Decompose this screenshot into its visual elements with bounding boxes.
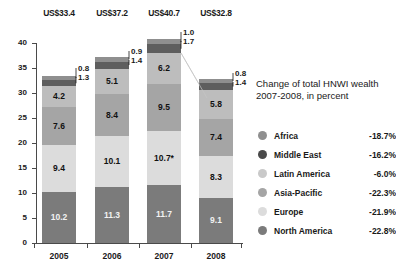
legend-item-asia-pacific[interactable]: Asia-Pacific-22.3%	[258, 183, 396, 202]
legend-color-swatch-icon	[258, 150, 267, 159]
bar-segment	[147, 39, 181, 44]
segment-value-label: 5.8	[210, 100, 222, 109]
legend-color-swatch-icon	[258, 131, 267, 140]
legend-item-latin-america[interactable]: Latin America-6.0%	[258, 164, 396, 183]
x-tick-label-2005: 2005	[34, 251, 84, 261]
bar-2008: 9.18.37.45.8	[199, 79, 233, 243]
y-tick-mark	[32, 93, 36, 94]
x-tick-mark	[87, 244, 88, 248]
callout-value-label: 1.0	[183, 28, 194, 37]
y-tick-mark	[32, 68, 36, 69]
bar-segment: 9.4	[42, 145, 76, 192]
legend: Change of total HNWI wealth 2007-2008, i…	[256, 78, 396, 102]
bar-segment	[199, 79, 233, 83]
bar-segment	[95, 57, 129, 62]
legend-item-label: Africa	[274, 131, 369, 141]
bar-segment: 7.4	[199, 119, 233, 156]
legend-item-label: Europe	[274, 207, 369, 217]
bar-segment: 8.4	[95, 94, 129, 136]
y-tick-label: 30	[11, 88, 27, 97]
y-axis-line	[36, 43, 37, 244]
bar-segment	[199, 83, 233, 90]
legend-color-swatch-icon	[258, 207, 267, 216]
callout-leader-line	[181, 53, 199, 84]
callout-value-label: 0.9	[131, 47, 142, 56]
y-tick-label: 35	[11, 63, 27, 72]
bar-segment: 5.1	[95, 69, 129, 95]
y-tick-label: 0	[11, 238, 27, 247]
x-tick-mark	[191, 244, 192, 248]
segment-value-label: 9.1	[210, 216, 222, 225]
y-tick-label: 15	[11, 163, 27, 172]
bar-segment: 4.2	[42, 86, 76, 107]
x-tick-label-2007: 2007	[139, 251, 189, 261]
total-label: US$33.4	[34, 8, 84, 18]
bar-segment: 7.6	[42, 107, 76, 145]
y-tick-mark	[32, 193, 36, 194]
segment-value-label: 10.1	[104, 157, 121, 166]
x-tick-label-2006: 2006	[87, 251, 137, 261]
bar-segment: 10.1	[95, 136, 129, 187]
total-label: US$32.8	[191, 8, 241, 18]
legend-item-value: -18.7%	[369, 131, 396, 141]
x-tick-mark	[241, 244, 242, 248]
bar-segment	[95, 62, 129, 69]
y-tick-mark	[32, 118, 36, 119]
bar-segment: 10.7*	[147, 131, 181, 185]
segment-value-label: 11.3	[104, 211, 120, 220]
y-tick-label: 40	[11, 38, 27, 47]
legend-item-north-america[interactable]: North America-22.8%	[258, 221, 396, 240]
segment-value-label: 5.1	[106, 77, 118, 86]
segment-value-label: 9.5	[158, 103, 170, 112]
segment-value-label: 8.4	[106, 111, 118, 120]
segment-value-label: 10.7*	[154, 154, 174, 163]
legend-title-line-1: Change of total HNWI wealth	[256, 78, 379, 89]
callout-value-label: 1.4	[235, 78, 246, 87]
y-tick-label: 25	[11, 113, 27, 122]
total-label: US$40.7	[139, 8, 189, 18]
segment-value-label: 9.4	[53, 164, 65, 173]
segment-value-label: 10.2	[51, 213, 68, 222]
x-tick-label-2008: 2008	[191, 251, 241, 261]
legend-item-label: Asia-Pacific	[274, 188, 369, 198]
callout-value-label: 0.8	[78, 64, 89, 73]
x-tick-mark	[139, 244, 140, 248]
y-tick-mark	[32, 43, 36, 44]
bar-segment	[42, 80, 76, 87]
bar-2005: 10.29.47.64.2	[42, 76, 76, 243]
y-tick-label: 10	[11, 188, 27, 197]
legend-color-swatch-icon	[258, 169, 267, 178]
callout-value-label: 1.7	[183, 37, 194, 46]
legend-item-value: -6.0%	[374, 169, 396, 179]
chart-container: US$33.4US$37.2US$40.7US$32.8 05101520253…	[0, 0, 396, 277]
legend-item-value: -21.9%	[369, 207, 396, 217]
y-tick-label: 20	[11, 138, 27, 147]
legend-item-value: -22.3%	[369, 188, 396, 198]
legend-item-label: Latin America	[274, 169, 374, 179]
bar-segment: 5.8	[199, 90, 233, 119]
bar-segment: 10.2	[42, 192, 76, 243]
segment-value-label: 4.2	[53, 92, 65, 101]
legend-item-middle-east[interactable]: Middle East-16.2%	[258, 145, 396, 164]
segment-value-label: 6.2	[158, 64, 170, 73]
bar-segment	[42, 76, 76, 80]
legend-item-africa[interactable]: Africa-18.7%	[258, 126, 396, 145]
bar-segment: 6.2	[147, 53, 181, 84]
y-tick-mark	[32, 218, 36, 219]
callout-value-label: 1.4	[131, 56, 142, 65]
total-label: US$37.2	[87, 8, 137, 18]
y-tick-mark	[32, 168, 36, 169]
segment-value-label: 7.4	[210, 133, 222, 142]
legend-title: Change of total HNWI wealth 2007-2008, i…	[256, 78, 396, 102]
bar-segment	[147, 44, 181, 53]
callout-value-label: 1.3	[78, 73, 89, 82]
bar-segment: 9.1	[199, 198, 233, 244]
legend-item-europe[interactable]: Europe-21.9%	[258, 202, 396, 221]
segment-value-label: 8.3	[210, 173, 222, 182]
legend-item-label: North America	[274, 226, 369, 236]
bar-segment: 11.7	[147, 185, 181, 244]
bar-segment: 11.3	[95, 187, 129, 244]
legend-color-swatch-icon	[258, 188, 267, 197]
legend-item-value: -16.2%	[369, 150, 396, 160]
callout-value-label: 0.8	[235, 69, 246, 78]
